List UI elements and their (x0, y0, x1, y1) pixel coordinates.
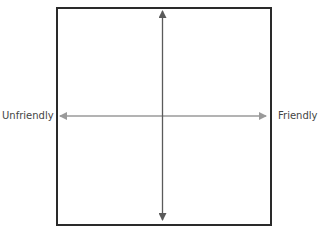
axis-label-unfriendly: Unfriendly (2, 110, 54, 122)
axis-label-friendly: Friendly (278, 110, 317, 122)
